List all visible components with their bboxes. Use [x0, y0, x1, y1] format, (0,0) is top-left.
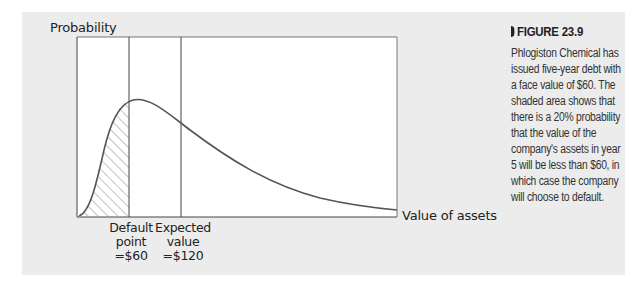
- figure-title-text: FIGURE 23.9: [517, 24, 583, 39]
- figure-marker-icon: [511, 26, 514, 37]
- y-axis-label: Probability: [50, 20, 117, 35]
- default-point-label-line2: point: [106, 235, 156, 249]
- expected-value-label-line1: Expected: [153, 221, 213, 235]
- expected-value-label: Expected value =$120: [153, 221, 213, 263]
- figure-title: FIGURE 23.9: [511, 24, 605, 39]
- default-point-label-line1: Default: [106, 221, 156, 235]
- figure-caption: FIGURE 23.9 Phlogiston Chemical has issu…: [511, 24, 621, 205]
- default-point-label-line3: =$60: [106, 249, 156, 263]
- default-point-label: Default point =$60: [106, 221, 156, 263]
- expected-value-label-line3: =$120: [153, 249, 213, 263]
- x-axis-label: Value of assets: [402, 208, 497, 223]
- figure-caption-text: Phlogiston Chemical has issued five-year…: [511, 45, 621, 205]
- expected-value-label-line2: value: [153, 235, 213, 249]
